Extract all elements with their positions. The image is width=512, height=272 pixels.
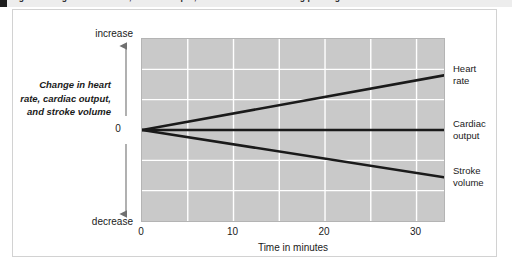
series-label-line-2: volume (453, 177, 507, 189)
plot-area (141, 38, 445, 222)
series-label-line-1: Stroke (453, 165, 507, 177)
y-axis-title: Change in heart rate, cardiac output, an… (19, 78, 111, 119)
series-label-line-2: rate (453, 75, 507, 87)
x-tick-label: 0 (126, 226, 156, 237)
figure-frame: increase decrease 0 Change in heart rate… (12, 9, 497, 257)
x-tick-label: 10 (218, 226, 248, 237)
series-lines (142, 39, 444, 221)
series-label-heart-rate: Heart rate (453, 63, 507, 86)
series-label-line-1: Cardiac (453, 118, 507, 130)
series-label-line-1: Heart (453, 63, 507, 75)
series-label-line-2: output (453, 130, 507, 142)
y-axis-zero-label: 0 (111, 123, 125, 134)
caption-strip: Figure Changes in heart rate, cardiac ou… (0, 0, 512, 7)
x-tick-label: 20 (309, 226, 339, 237)
figure-caption: Figure Changes in heart rate, cardiac ou… (11, 0, 387, 2)
caption-bullet-icon (0, 0, 7, 7)
x-tick-label: 30 (401, 226, 431, 237)
series-label-cardiac-output: Cardiac output (453, 118, 507, 141)
y-axis-bottom-label: decrease (57, 216, 133, 227)
x-axis-title: Time in minutes (141, 242, 445, 253)
series-label-stroke-volume: Stroke volume (453, 165, 507, 188)
y-axis-top-label: increase (57, 28, 133, 39)
